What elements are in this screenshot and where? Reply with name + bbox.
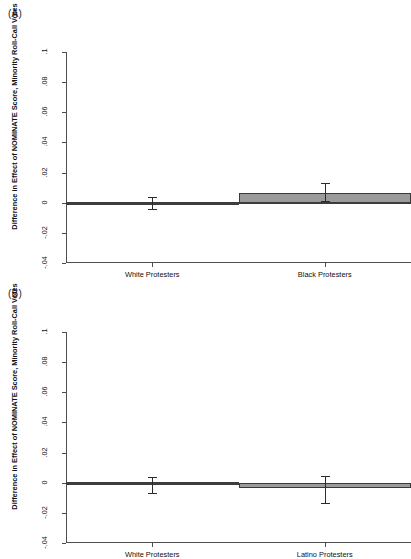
panel-a-x-axis-line [66,262,411,263]
panel-a: (A) Difference in Effect of NOMINATE Sco… [0,0,411,279]
panel-a-y-tick [62,82,66,83]
panel-a-x-tick-label: Black Protesters [260,270,390,279]
panel-b-y-tick-label: -.04 [40,528,49,558]
panel-a-y-tick [62,52,66,53]
panel-a-y-tick-label: .02 [40,157,49,187]
panel-b-x-tick [325,543,326,547]
panel-a-y-tick-label: -.04 [40,248,49,278]
panel-a-y-axis-title: Difference in Effect of NOMINATE Score, … [10,0,19,237]
panel-a-y-tick-label: -.02 [40,217,49,247]
panel-a-y-tick-label: 0 [40,187,49,217]
panel-a-error-cap [321,183,330,184]
panel-a-error-bar [152,197,153,209]
panel-a-y-tick [62,173,66,174]
panel-a-x-tick-label: White Protesters [87,270,217,279]
panel-a-plot-area: -.04-.020.02.04.06.08.1White ProtestersB… [66,52,411,263]
panel-a-x-tick [325,263,326,267]
panel-b-x-axis-line [66,542,411,543]
panel-b-plot-area: -.04-.020.02.04.06.08.1White ProtestersL… [66,332,411,543]
panel-b-error-cap [321,503,330,504]
panel-b-error-cap [321,476,330,477]
panel-b-y-tick [62,513,66,514]
panel-b-error-bar [325,476,326,503]
panel-b-y-axis-title: Difference in Effect of NOMINATE Score, … [10,277,19,517]
panel-a-y-tick-label: .1 [40,37,49,67]
panel-b-x-tick-label: Latino Protesters [260,550,390,559]
panel-a-y-tick [62,233,66,234]
panel-b: (B) Difference in Effect of NOMINATE Sco… [0,280,411,559]
panel-a-error-cap [148,197,157,198]
panel-b-x-tick-label: White Protesters [87,550,217,559]
panel-a-y-tick [62,263,66,264]
panel-a-y-tick-label: .08 [40,67,49,97]
panel-b-y-tick [62,422,66,423]
panel-b-y-tick [62,362,66,363]
panel-a-y-tick [62,142,66,143]
panel-a-y-axis-line [66,52,67,263]
panel-b-y-tick [62,453,66,454]
panel-b-y-tick-label: .04 [40,407,49,437]
panel-b-y-tick [62,332,66,333]
panel-a-x-tick [152,263,153,267]
panel-b-error-cap [148,477,157,478]
panel-a-y-tick [62,112,66,113]
panel-a-error-cap [321,201,330,202]
panel-b-y-tick-label: -.02 [40,497,49,527]
panel-b-y-tick-label: .08 [40,347,49,377]
panel-b-y-tick-label: 0 [40,467,49,497]
panel-b-y-tick [62,543,66,544]
panel-b-x-tick [152,543,153,547]
panel-b-y-tick [62,392,66,393]
panel-b-y-axis-line [66,332,67,543]
panel-b-error-cap [148,493,157,494]
panel-a-error-bar [325,183,326,201]
panel-a-y-tick-label: .04 [40,127,49,157]
panel-b-y-tick-label: .02 [40,437,49,467]
panel-b-y-tick-label: .1 [40,317,49,347]
panel-a-y-tick-label: .06 [40,97,49,127]
panel-b-y-tick-label: .06 [40,377,49,407]
panel-a-error-cap [148,209,157,210]
panel-b-error-bar [152,477,153,493]
